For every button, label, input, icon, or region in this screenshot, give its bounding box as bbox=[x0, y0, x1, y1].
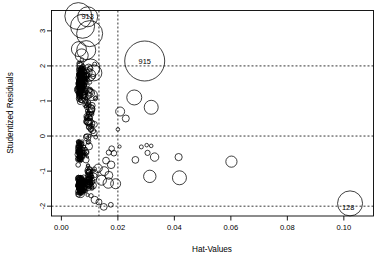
y-tick-label: 2 bbox=[38, 64, 47, 68]
x-axis-title: Hat-Values bbox=[192, 245, 232, 254]
influence-plot-figure: 0.000.020.040.060.080.10 -2-10123 Hat-Va… bbox=[0, 0, 388, 269]
y-tick-label: -2 bbox=[38, 203, 47, 210]
point-annotation-label: 128 bbox=[342, 203, 354, 212]
x-tick-label: 0.10 bbox=[336, 223, 351, 232]
x-tick-label: 0.00 bbox=[54, 223, 69, 232]
y-tick-label: 1 bbox=[38, 99, 47, 103]
point-annotation-label: 915 bbox=[139, 57, 151, 66]
x-tick-label: 0.04 bbox=[167, 223, 182, 232]
y-tick-label: 0 bbox=[38, 134, 47, 138]
y-tick-label: 3 bbox=[38, 29, 47, 33]
x-tick-label: 0.06 bbox=[223, 223, 238, 232]
plot-canvas: 0.000.020.040.060.080.10 -2-10123 Hat-Va… bbox=[0, 0, 388, 269]
x-tick-label: 0.08 bbox=[280, 223, 295, 232]
x-tick-label: 0.02 bbox=[110, 223, 125, 232]
y-axis-title: Studentized Residuals bbox=[6, 72, 15, 153]
point-annotation-label: 913 bbox=[81, 12, 93, 21]
y-tick-label: -1 bbox=[38, 168, 47, 175]
